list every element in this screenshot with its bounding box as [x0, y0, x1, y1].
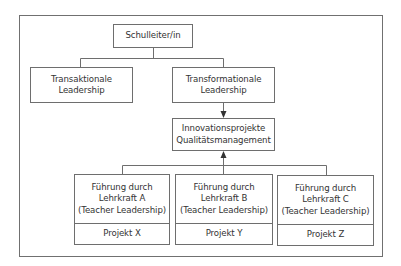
transactional-leadership-box: Transaktionale Leadership [30, 67, 133, 103]
innovation-line2: Qualitätsmanagement [176, 135, 270, 147]
project-z: Projekt Z [278, 225, 373, 245]
teacher-c-line1: Führung durch [295, 183, 356, 195]
transactional-line1: Transaktionale [51, 74, 112, 86]
teacher-a-description: Führung durch Lehrkraft A (Teacher Leade… [75, 175, 169, 224]
teacher-b-line3: (Teacher Leadership) [180, 205, 268, 217]
project-z-label: Projekt Z [307, 229, 344, 241]
teacher-c-line3: (Teacher Leadership) [281, 206, 369, 218]
arrow-up-icon [221, 151, 227, 158]
project-x: Projekt X [75, 224, 169, 244]
teacher-card-b: Führung durch Lehrkraft B (Teacher Leade… [175, 174, 273, 245]
root-label: Schulleiter/in [125, 30, 180, 42]
transformational-line2: Leadership [200, 85, 246, 97]
innovation-line1: Innovationsprojekte [182, 123, 265, 135]
teacher-c-description: Führung durch Lehrkraft C (Teacher Leade… [278, 176, 373, 225]
teacher-card-a: Führung durch Lehrkraft A (Teacher Leade… [74, 174, 170, 245]
project-y: Projekt Y [176, 224, 272, 244]
teacher-c-line2: Lehrkraft C [302, 194, 349, 206]
innovation-box: Innovationsprojekte Qualitätsmanagement [172, 118, 275, 151]
teacher-b-line1: Führung durch [193, 182, 254, 194]
teacher-a-line1: Führung durch [91, 182, 152, 194]
project-y-label: Projekt Y [206, 228, 243, 240]
transactional-line2: Leadership [58, 85, 104, 97]
teacher-b-description: Führung durch Lehrkraft B (Teacher Leade… [176, 175, 272, 224]
teacher-b-line2: Lehrkraft B [201, 193, 247, 205]
root-box: Schulleiter/in [113, 24, 193, 48]
arrow-down-icon [221, 111, 227, 118]
transformational-line1: Transformationale [186, 74, 262, 86]
transformational-leadership-box: Transformationale Leadership [172, 67, 275, 103]
teacher-a-line3: (Teacher Leadership) [78, 205, 166, 217]
teacher-card-c: Führung durch Lehrkraft C (Teacher Leade… [277, 175, 374, 246]
project-x-label: Projekt X [103, 228, 140, 240]
teacher-a-line2: Lehrkraft A [99, 193, 145, 205]
